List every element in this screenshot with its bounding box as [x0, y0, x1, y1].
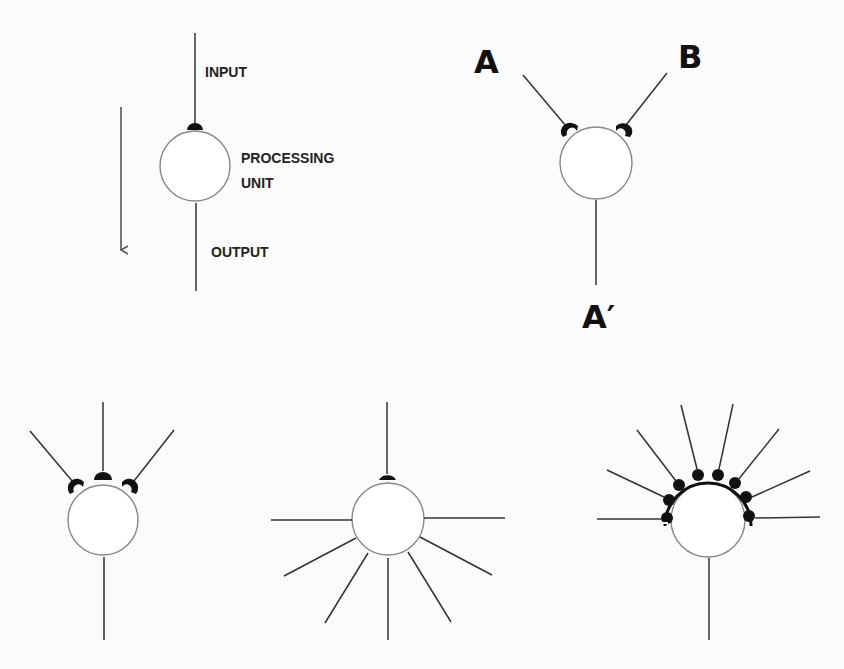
input-line [681, 405, 697, 469]
output-line [325, 553, 368, 623]
input-line [755, 517, 820, 518]
input-line-b [626, 73, 667, 125]
label-a: A [474, 45, 499, 79]
input-line-a [523, 75, 566, 126]
output-label: OUTPUT [211, 244, 269, 260]
output-line [420, 537, 492, 575]
two-input-panel [523, 73, 667, 285]
input-line [752, 471, 810, 497]
high-convergence-panel [597, 404, 820, 640]
input-line [637, 430, 676, 481]
label-a-prime: A′ [582, 300, 615, 334]
label-b: B [678, 40, 702, 74]
synapse-icon [94, 472, 112, 480]
processing-label: PROCESSING [241, 150, 334, 166]
input-line [719, 404, 733, 469]
synapse-icon [187, 123, 203, 130]
diagram-canvas [0, 0, 844, 669]
input-line [30, 431, 73, 482]
output-line [284, 538, 356, 576]
input-line [738, 429, 779, 480]
processing-unit [160, 131, 230, 201]
input-line [134, 430, 174, 481]
unit-label: UNIT [241, 175, 274, 191]
synapse-icon [379, 475, 396, 480]
input-label: INPUT [205, 64, 247, 80]
convergence-panel [30, 402, 174, 640]
output-line [408, 552, 451, 622]
processing-unit [352, 483, 424, 555]
input-line [607, 470, 664, 497]
processing-unit [560, 127, 632, 199]
processing-unit [671, 483, 745, 557]
processing-unit [68, 485, 138, 555]
divergence-panel [271, 402, 505, 640]
